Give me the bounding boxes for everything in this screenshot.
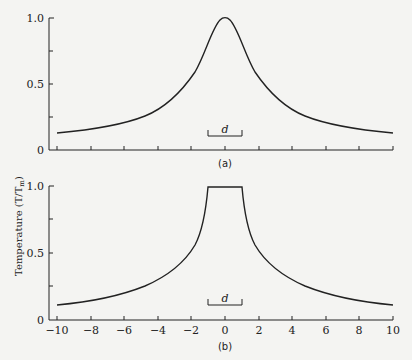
- panel-a: 1.0 0.5 0 d (a): [27, 12, 394, 169]
- svg-text:−6: −6: [116, 324, 132, 337]
- svg-text:4: 4: [289, 324, 296, 337]
- svg-text:−2: −2: [183, 324, 199, 337]
- y-tick-label: 0: [37, 314, 44, 327]
- x-ticks-b: [57, 316, 393, 320]
- y-tick-label: 1.0: [27, 180, 45, 193]
- panel-label-a: (a): [218, 158, 232, 169]
- d-label-b: d: [221, 292, 228, 305]
- svg-text:2: 2: [256, 324, 263, 337]
- figure: 1.0 0.5 0 d (a) 1.0 0.5: [0, 0, 412, 360]
- y-tick-label: 0.5: [27, 247, 45, 260]
- svg-text:10: 10: [386, 324, 400, 337]
- svg-text:−8: −8: [83, 324, 99, 337]
- y-tick-label: 0: [37, 144, 44, 157]
- svg-text:6: 6: [323, 324, 330, 337]
- x-ticks-a: [57, 146, 393, 150]
- curve-a: [57, 18, 393, 133]
- y-tick-label: 0.5: [27, 78, 45, 91]
- y-tick-label: 1.0: [27, 12, 45, 25]
- svg-text:−4: −4: [150, 324, 166, 337]
- d-label-a: d: [221, 123, 228, 136]
- svg-text:−10: −10: [45, 324, 68, 337]
- svg-text:0: 0: [222, 324, 229, 337]
- panel-label-b: (b): [218, 341, 232, 352]
- svg-text:8: 8: [356, 324, 363, 337]
- curve-b: [57, 187, 393, 305]
- x-tick-labels-b: −10 −8 −6 −4 −2 0 2 4 6 8 10: [45, 324, 400, 337]
- panel-b: 1.0 0.5 0 −10 −8 −6 −4 −2 0 2 4 6 8: [27, 180, 401, 352]
- y-axis-label: Temperature (T/Tm): [13, 176, 26, 276]
